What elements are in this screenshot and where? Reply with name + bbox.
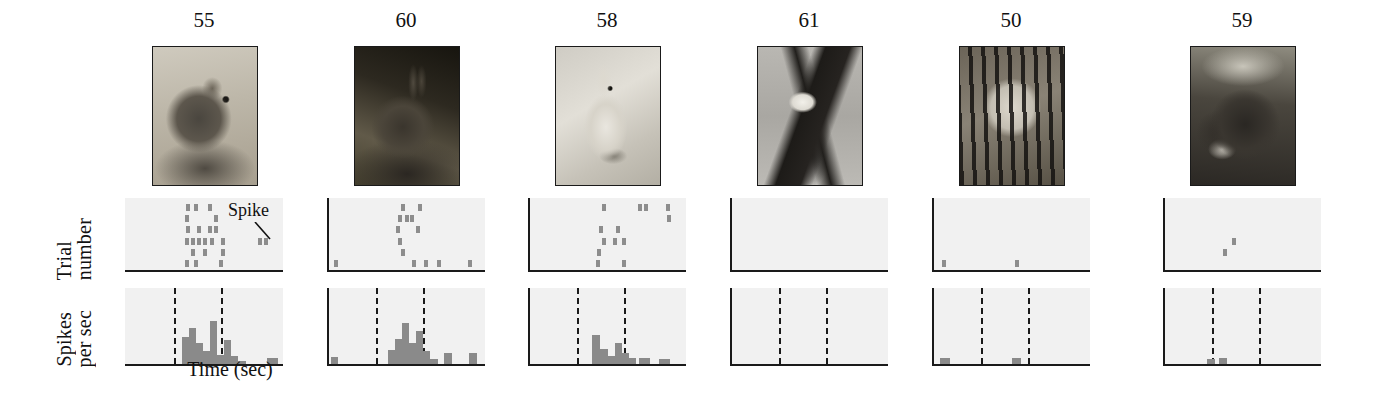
spike-annotation-label: Spike [228,200,269,221]
spike-mark [437,260,441,267]
stimulus-number-label: 58 [528,8,686,33]
psth-x-axis-line [327,364,485,366]
spike-mark [185,260,189,267]
raster-x-axis-line [932,270,1090,272]
psth-bar [1012,358,1021,364]
stimulus-panel-55: 55 [125,0,283,398]
spike-mark [186,204,190,211]
spike-mark [418,204,422,211]
stimulus-onset-marker [376,288,378,364]
raster-x-axis-line [125,270,283,272]
raster-plot [327,198,485,272]
psth-bar [659,359,670,364]
psth-bar [622,353,629,364]
psth-plot-area [934,288,1090,364]
spike-mark [197,226,201,233]
stimulus-number-label: 50 [932,8,1090,33]
raster-plot [932,198,1090,272]
spike-mark [602,204,606,211]
raster-plot-area [1165,198,1321,270]
raster-plot [730,198,888,272]
psth-histogram [528,288,686,366]
psth-bar [639,358,650,364]
psth-plot-area [1165,288,1321,364]
stimulus-photo [153,47,257,185]
spike-mark [185,215,189,222]
stimulus-offset-marker [826,288,828,364]
stimulus-onset-marker [174,288,176,364]
stimulus-image-tiger [959,46,1065,186]
psth-plot-area [732,288,888,364]
spike-mark [398,238,402,245]
y-axis-label-rate-line1: Spikes [54,312,74,367]
raster-x-axis-line [528,270,686,272]
raster-plot [1163,198,1321,272]
stimulus-number-label: 61 [730,8,888,33]
spike-mark [214,215,218,222]
stimulus-image-rhinoceros [1190,46,1296,186]
spike-mark [602,238,606,245]
stimulus-panel-60: 60 [327,0,485,398]
spike-mark [208,204,212,211]
spike-mark [405,215,409,222]
stimulus-photo [556,47,660,185]
stimulus-photo [1191,47,1295,185]
psth-bar [444,353,452,364]
psth-bar [940,358,949,364]
psth-bar [395,339,402,364]
raster-plot-area [732,198,888,270]
y-axis-label-spikes-per-sec: Spikes per sec [26,289,122,367]
spike-mark [197,238,201,245]
spike-mark [942,260,946,267]
stimulus-offset-marker [1028,288,1030,364]
spike-mark [401,249,405,256]
stimulus-photo [355,47,459,185]
y-axis-label-trial-line2: number [74,218,94,280]
raster-x-axis-line [327,270,485,272]
raster-plot-area [934,198,1090,270]
spike-mark [194,204,198,211]
stimulus-offset-marker [221,288,223,364]
stimulus-offset-marker [1259,288,1261,364]
spike-mark [214,226,218,233]
spike-mark [638,204,642,211]
psth-bar [608,356,615,364]
psth-bar [388,350,395,364]
psth-bar [402,323,409,364]
spike-mark [185,238,189,245]
stimulus-image-eagle [757,46,863,186]
spike-mark [191,249,195,256]
psth-x-axis-line [1163,364,1321,366]
psth-x-axis-line [528,364,686,366]
psth-histogram [1163,288,1321,366]
psth-bar [423,351,430,364]
psth-histogram [125,288,283,366]
psth-bar [600,349,608,364]
spike-mark [410,215,414,222]
spike-mark [622,238,626,245]
raster-plot [528,198,686,272]
spike-mark [208,226,212,233]
psth-histogram [932,288,1090,366]
spike-mark [667,215,671,222]
spike-mark [613,238,617,245]
spike-mark [424,260,428,267]
neural-response-figure: Trial number Spikes per sec 556058615059… [0,0,1381,398]
stimulus-panel-58: 58 [528,0,686,398]
stimulus-photo [960,47,1064,185]
psth-bar [430,359,438,364]
spike-mark [194,260,198,267]
spike-mark [1015,260,1019,267]
x-axis-label-time: Time (sec) [140,358,320,381]
stimulus-photo [758,47,862,185]
psth-x-axis-line [932,364,1090,366]
psth-bar [416,331,423,364]
y-axis-label-trial-number: Trial number [26,200,122,280]
stimulus-image-hare [555,46,661,186]
psth-bar [615,343,622,364]
raster-x-axis-line [1163,270,1321,272]
psth-histogram [327,288,485,366]
stimulus-onset-marker [981,288,983,364]
spike-mark [644,204,648,211]
psth-bar [1207,359,1215,364]
